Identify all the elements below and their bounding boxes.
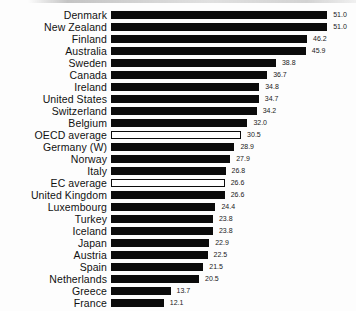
bar [111,215,213,223]
chart-row: New Zealand51.0 [0,21,356,33]
category-label: Netherlands [0,273,107,285]
chart-row: OECD average30.5 [0,129,356,141]
bar [111,167,226,175]
value-label: 22.9 [215,237,229,249]
bar [111,95,259,103]
chart-row: Italy26.8 [0,165,356,177]
value-label: 24.4 [221,201,235,213]
bar [111,287,171,295]
value-label: 51.0 [333,21,347,33]
value-label: 26.6 [231,177,245,189]
chart-row: United Kingdom26.6 [0,189,356,201]
chart-row: Austria22.5 [0,249,356,261]
category-label: Australia [0,45,107,57]
category-label: New Zealand [0,21,107,33]
bar [111,155,230,163]
bar [111,299,164,307]
category-label: Greece [0,285,107,297]
bar [111,107,257,115]
bar [111,251,208,259]
bar [111,83,259,91]
value-label: 34.2 [263,105,277,117]
average-bar [111,179,225,187]
bar [111,71,267,79]
bar-chart: Denmark51.0New Zealand51.0Finland46.2Aus… [0,0,356,311]
category-label: Finland [0,33,107,45]
chart-row: United States34.7 [0,93,356,105]
category-label: United States [0,93,107,105]
bar [111,191,225,199]
value-label: 20.5 [205,273,219,285]
value-label: 28.9 [240,141,254,153]
category-label: Austria [0,249,107,261]
chart-row: Denmark51.0 [0,9,356,21]
value-label: 46.2 [313,33,327,45]
bar [111,143,234,151]
category-label: Denmark [0,9,107,21]
bar [111,203,215,211]
category-label: Turkey [0,213,107,225]
chart-row: Australia45.9 [0,45,356,57]
chart-row: Luxembourg24.4 [0,201,356,213]
value-label: 23.8 [219,213,233,225]
chart-row: Belgium32.0 [0,117,356,129]
value-label: 30.5 [247,129,261,141]
category-label: Sweden [0,57,107,69]
category-label: EC average [0,177,107,189]
value-label: 36.7 [273,69,287,81]
chart-row: Switzerland34.2 [0,105,356,117]
category-label: Norway [0,153,107,165]
bar [111,11,327,19]
value-label: 22.5 [214,249,228,261]
value-label: 51.0 [333,9,347,21]
bar [111,35,307,43]
category-label: Spain [0,261,107,273]
bar [111,59,276,67]
chart-row: Norway27.9 [0,153,356,165]
category-label: France [0,297,107,309]
bar [111,47,306,55]
chart-row: France12.1 [0,297,356,309]
category-label: Canada [0,69,107,81]
chart-row: Netherlands20.5 [0,273,356,285]
value-label: 21.5 [209,261,223,273]
value-label: 34.8 [265,81,279,93]
category-label: Ireland [0,81,107,93]
value-label: 23.8 [219,225,233,237]
chart-row: EC average26.6 [0,177,356,189]
category-label: Switzerland [0,105,107,117]
bar [111,239,209,247]
chart-row: Germany (W)28.9 [0,141,356,153]
category-label: Japan [0,237,107,249]
bar [111,227,213,235]
bar [111,275,199,283]
category-label: Italy [0,165,107,177]
chart-row: Japan22.9 [0,237,356,249]
category-label: OECD average [0,129,107,141]
average-bar [111,131,241,139]
chart-row: Sweden38.8 [0,57,356,69]
value-label: 12.1 [170,297,184,309]
chart-row: Greece13.7 [0,285,356,297]
chart-row: Finland46.2 [0,33,356,45]
value-label: 26.8 [232,165,246,177]
value-label: 45.9 [312,45,326,57]
bar [111,119,247,127]
chart-rows: Denmark51.0New Zealand51.0Finland46.2Aus… [0,9,356,309]
bar [111,23,327,31]
category-label: United Kingdom [0,189,107,201]
chart-row: Spain21.5 [0,261,356,273]
chart-row: Ireland34.8 [0,81,356,93]
value-label: 32.0 [253,117,267,129]
category-label: Luxembourg [0,201,107,213]
chart-row: Turkey23.8 [0,213,356,225]
value-label: 34.7 [265,93,279,105]
category-label: Iceland [0,225,107,237]
category-label: Belgium [0,117,107,129]
bar [111,263,203,271]
value-label: 26.6 [231,189,245,201]
scan-artifact [28,0,356,3]
value-label: 38.8 [282,57,296,69]
chart-row: Iceland23.8 [0,225,356,237]
value-label: 13.7 [177,285,191,297]
